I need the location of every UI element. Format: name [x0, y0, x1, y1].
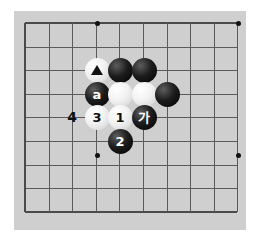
grid-line-vertical — [214, 23, 215, 212]
triangle-marker-icon — [91, 65, 103, 75]
stone-black-black-top-2[interactable] — [132, 58, 157, 83]
grid-line-horizontal — [25, 165, 237, 166]
stone-black-black-top-1[interactable] — [108, 58, 133, 83]
stone-label: 2 — [115, 135, 124, 148]
grid-line-vertical — [167, 23, 168, 212]
grid-line-vertical — [237, 23, 238, 212]
go-diagram-root: 4a31가2 — [0, 0, 257, 248]
stone-black-black-a[interactable]: a — [85, 82, 110, 107]
grid-line-horizontal — [25, 188, 237, 189]
grid-line-vertical — [24, 23, 26, 212]
grid-line-horizontal — [25, 211, 237, 213]
grid-line-horizontal — [25, 47, 237, 48]
stone-label: 가 — [138, 111, 150, 124]
grid-line-horizontal — [25, 22, 237, 24]
stone-black-black-ga[interactable]: 가 — [132, 105, 157, 130]
star-point — [95, 153, 100, 158]
stone-label: a — [93, 88, 102, 101]
stone-black-black-right[interactable] — [155, 82, 180, 107]
go-board[interactable]: 4a31가2 — [0, 0, 257, 248]
board-point-label-4: 4 — [63, 108, 81, 126]
star-point — [236, 153, 241, 158]
stone-white-white-triangle[interactable] — [85, 58, 110, 83]
grid-line-vertical — [49, 23, 50, 212]
grid-line-vertical — [190, 23, 191, 212]
stone-label: 3 — [92, 111, 101, 124]
stone-white-white-mid-1[interactable] — [108, 82, 133, 107]
star-point — [236, 21, 241, 26]
stone-black-black-2[interactable]: 2 — [108, 129, 133, 154]
stone-white-white-1[interactable]: 1 — [108, 105, 133, 130]
stone-white-white-3[interactable]: 3 — [85, 105, 110, 130]
stone-label: 1 — [115, 111, 124, 124]
star-point — [95, 21, 100, 26]
stone-white-white-mid-2[interactable] — [132, 82, 157, 107]
